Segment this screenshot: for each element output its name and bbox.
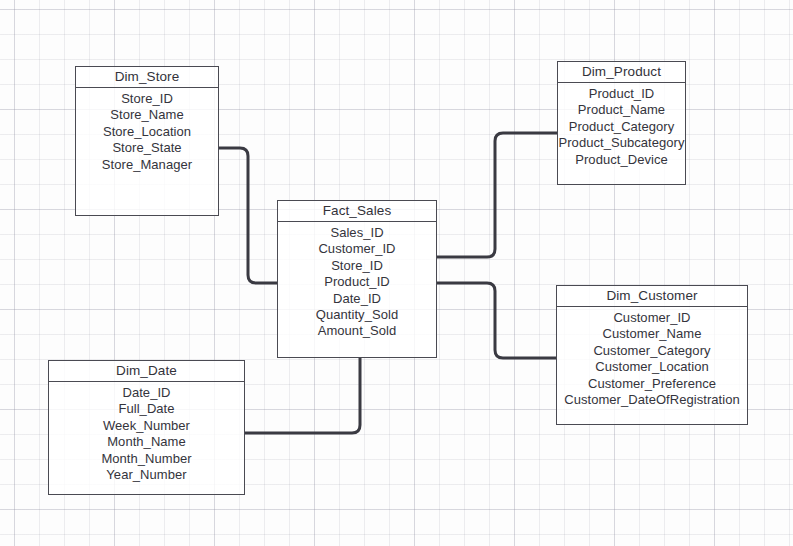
entity-title: Fact_Sales [278,201,436,222]
entity-field: Sales_ID [278,225,436,241]
entity-field: Quantity_Sold [278,307,436,323]
entity-field: Customer_ID [278,241,436,257]
entity-field: Product_ID [558,86,685,102]
entity-field: Customer_ID [557,310,747,326]
entity-title: Dim_Product [558,62,685,83]
connector-store-to-fact [219,148,277,283]
entity-dim-store[interactable]: Dim_Store Store_ID Store_Name Store_Loca… [75,66,219,216]
entity-field: Product_Category [558,119,685,135]
entity-field: Product_Device [558,152,685,168]
entity-title: Dim_Date [49,361,244,382]
entity-dim-customer[interactable]: Dim_Customer Customer_ID Customer_Name C… [556,285,748,425]
entity-field: Customer_Location [557,359,747,375]
entity-field: Store_State [76,140,218,156]
connector-customer-to-fact [437,283,556,358]
entity-field: Month_Number [49,451,244,467]
entity-field: Week_Number [49,418,244,434]
entity-field: Store_ID [278,258,436,274]
entity-field: Customer_DateOfRegistration [557,392,747,408]
entity-field: Store_Manager [76,157,218,173]
entity-field: Year_Number [49,467,244,483]
entity-title: Dim_Store [76,67,218,88]
entity-dim-date[interactable]: Dim_Date Date_ID Full_Date Week_Number M… [48,360,245,495]
entity-field: Product_Subcategory [558,135,685,151]
entity-field: Customer_Category [557,343,747,359]
entity-field-list: Product_ID Product_Name Product_Category… [558,83,685,168]
entity-field: Customer_Name [557,326,747,342]
entity-field: Full_Date [49,401,244,417]
connector-date-to-fact [245,358,360,433]
entity-title: Dim_Customer [557,286,747,307]
entity-field-list: Store_ID Store_Name Store_Location Store… [76,88,218,173]
entity-field: Customer_Preference [557,376,747,392]
connector-product-to-fact [437,133,557,257]
entity-dim-product[interactable]: Dim_Product Product_ID Product_Name Prod… [557,61,686,185]
entity-field: Store_Location [76,124,218,140]
schema-diagram-canvas: Dim_Store Store_ID Store_Name Store_Loca… [0,0,793,546]
entity-field: Amount_Sold [278,323,436,339]
entity-field: Product_ID [278,274,436,290]
entity-field-list: Sales_ID Customer_ID Store_ID Product_ID… [278,222,436,340]
entity-field: Month_Name [49,434,244,450]
entity-field: Date_ID [278,291,436,307]
entity-field: Product_Name [558,102,685,118]
entity-field-list: Date_ID Full_Date Week_Number Month_Name… [49,382,244,483]
entity-field: Date_ID [49,385,244,401]
entity-fact-sales[interactable]: Fact_Sales Sales_ID Customer_ID Store_ID… [277,200,437,358]
entity-field: Store_ID [76,91,218,107]
entity-field-list: Customer_ID Customer_Name Customer_Categ… [557,307,747,408]
entity-field: Store_Name [76,107,218,123]
